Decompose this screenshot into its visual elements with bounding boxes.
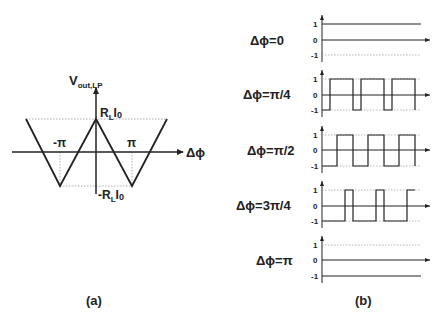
svg-text:0: 0 — [313, 146, 318, 155]
neg-pi-label: -π — [53, 136, 66, 150]
plot-dphi-pi-4: Δϕ=π/4 1 0 -1 — [243, 70, 430, 117]
svg-text:-1: -1 — [311, 272, 319, 281]
tick-neg1: -1 — [311, 51, 319, 60]
peak-label: RLI0 — [100, 106, 122, 122]
caption-b: (b) — [355, 293, 372, 308]
plot-dphi-3pi-4: Δϕ=3π/4 1 0 -1 — [236, 181, 430, 228]
plot-dphi-0: Δϕ=0 1 0 -1 — [250, 15, 430, 62]
trough-label: -RLI0 — [98, 188, 124, 204]
pi-label: π — [127, 136, 136, 150]
svg-text:1: 1 — [313, 131, 318, 140]
plot-label: Δϕ=0 — [250, 33, 284, 48]
y-axis-label: Vout,LP — [69, 73, 103, 90]
svg-text:1: 1 — [313, 75, 318, 84]
plot-label: Δϕ=3π/4 — [236, 198, 291, 213]
tick-0: 0 — [313, 36, 318, 45]
svg-text:1: 1 — [313, 241, 318, 250]
plot-dphi-pi: Δϕ=π 1 0 -1 — [256, 236, 430, 283]
plot-dphi-pi-2: Δϕ=π/2 1 0 -1 — [247, 126, 430, 173]
svg-text:-1: -1 — [311, 217, 319, 226]
plot-label: Δϕ=π/2 — [247, 143, 294, 158]
svg-text:0: 0 — [313, 91, 318, 100]
tick-1: 1 — [313, 20, 318, 29]
svg-text:-1: -1 — [311, 106, 319, 115]
plot-label: Δϕ=π — [256, 253, 293, 268]
figure-canvas: Vout,LP RLI0 -RLI0 -π π Δϕ (a) Δϕ=0 1 0 … — [0, 0, 439, 328]
panel-a: Vout,LP RLI0 -RLI0 -π π Δϕ (a) — [12, 73, 205, 308]
svg-text:0: 0 — [313, 202, 318, 211]
x-axis-label: Δϕ — [186, 145, 205, 160]
panel-b: Δϕ=0 1 0 -1 Δϕ=π/4 1 0 -1 Δϕ=π/2 — [236, 15, 430, 308]
svg-text:-1: -1 — [311, 162, 319, 171]
svg-text:1: 1 — [313, 186, 318, 195]
svg-text:0: 0 — [313, 256, 318, 265]
plot-label: Δϕ=π/4 — [243, 87, 291, 102]
caption-a: (a) — [86, 293, 102, 308]
